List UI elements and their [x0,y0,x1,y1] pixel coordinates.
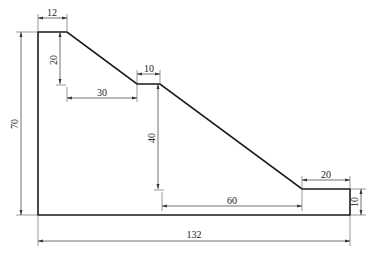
label-top-width: 12 [47,7,57,18]
label-middle-step-width: 10 [144,63,154,74]
dim-middle-step-width: 10 [137,63,160,83]
label-total-height: 70 [9,119,20,129]
dim-bottom-step-width: 20 [302,169,350,188]
dim-total-height: 70 [9,32,37,215]
label-second-slope-drop: 40 [146,133,157,143]
dim-total-width: 132 [38,216,350,246]
dim-first-slope-run: 30 [67,85,137,102]
label-total-width: 132 [187,229,202,240]
dim-bottom-step-height: 10 [349,189,366,215]
dim-second-slope-drop: 40 [146,84,164,190]
dim-first-slope-drop: 20 [48,32,66,85]
label-bottom-step-height: 10 [349,197,360,207]
label-second-slope-run: 60 [227,195,237,206]
label-first-slope-run: 30 [97,87,107,98]
part-outline [38,32,350,215]
label-first-slope-drop: 20 [48,55,59,65]
dim-top-width: 12 [38,7,67,31]
label-bottom-step-width: 20 [321,169,331,180]
dim-second-slope-run: 60 [162,190,302,211]
technical-drawing: 12 20 30 10 40 60 20 [0,0,377,260]
